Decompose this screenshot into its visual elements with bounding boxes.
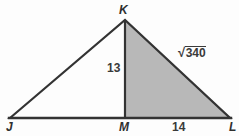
vertex-label-m: M [119,121,129,133]
geometry-figure: K J M L 13 14 √ 340 [0,0,239,136]
vertex-label-j: J [6,121,13,133]
altitude-measure-label: 13 [107,62,120,74]
radicand-value: 340 [185,46,206,60]
vertex-label-l: L [229,121,236,133]
base-segment-measure-label: 14 [172,121,185,133]
vertex-label-k: K [119,4,128,16]
radical-sign-icon: √ [178,46,185,59]
hypotenuse-measure-label: √ 340 [178,46,206,60]
